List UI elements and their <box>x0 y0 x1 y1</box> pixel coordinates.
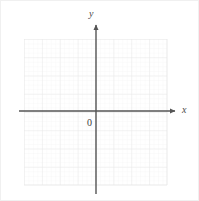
y-axis-label: y <box>89 9 93 19</box>
coordinate-plane-canvas <box>1 1 199 201</box>
origin-label: 0 <box>87 118 92 128</box>
coordinate-plane-figure: y x 0 <box>0 0 199 201</box>
x-axis-label: x <box>182 105 186 115</box>
